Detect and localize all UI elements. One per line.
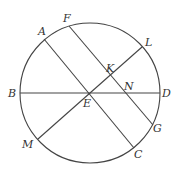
label-b: B (7, 87, 16, 100)
circle-diagram: A F L K N B D E M G C (0, 0, 178, 172)
label-n: N (123, 80, 134, 93)
label-a: A (37, 25, 46, 38)
label-e: E (82, 97, 91, 110)
label-f: F (62, 12, 71, 25)
label-c: C (134, 148, 143, 161)
label-k: K (105, 62, 115, 75)
label-l: L (144, 36, 152, 49)
label-m: M (21, 138, 34, 151)
label-g: G (153, 122, 162, 135)
label-d: D (161, 87, 171, 100)
chord-fg (69, 26, 153, 125)
